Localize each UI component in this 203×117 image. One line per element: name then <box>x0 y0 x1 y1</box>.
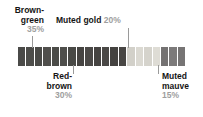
bar-segment <box>161 47 169 66</box>
bar-segment <box>60 47 68 66</box>
bar-segment <box>18 47 26 66</box>
bar-segment <box>178 47 185 66</box>
callout-red-brown-line2: brown <box>47 81 73 91</box>
callout-brown-green-line2: green <box>21 15 44 25</box>
callout-muted-gold-percent: 20% <box>104 15 121 25</box>
callout-red-brown-line1: Red- <box>53 71 72 81</box>
bar-segment <box>119 47 127 66</box>
chart-canvas: Brown- green 35% Muted gold 20% Red- bro… <box>0 0 203 117</box>
leader-line-muted-gold <box>128 28 129 48</box>
bar-segment <box>43 47 51 66</box>
callout-muted-mauve: Muted mauve 15% <box>162 72 189 101</box>
bar-segment <box>110 47 118 66</box>
callout-muted-mauve-line2: mauve <box>162 81 189 91</box>
leader-line-muted-mauve <box>158 65 159 74</box>
bar-segment <box>35 47 43 66</box>
callout-muted-mauve-line1: Muted <box>162 71 187 81</box>
bar-segment <box>85 47 93 66</box>
bar-segment <box>136 47 144 66</box>
bar-segment <box>68 47 76 66</box>
callout-muted-gold-name: Muted gold <box>56 15 101 25</box>
callout-brown-green-line1: Brown- <box>15 5 44 15</box>
callout-brown-green-percent: 35% <box>2 25 44 35</box>
callout-muted-gold: Muted gold 20% <box>56 16 121 26</box>
leader-line-brown-green <box>32 36 33 48</box>
bar-segment <box>52 47 60 66</box>
bar-segment <box>102 47 110 66</box>
bar-segment <box>153 47 161 66</box>
bar-segment <box>127 47 135 66</box>
bar-segment <box>26 47 34 66</box>
bar-segment <box>94 47 102 66</box>
segmented-color-bar <box>18 47 185 66</box>
bar-segment <box>169 47 177 66</box>
bar-segment <box>77 47 85 66</box>
bar-segment <box>144 47 152 66</box>
callout-red-brown: Red- brown 30% <box>32 72 72 101</box>
callout-brown-green: Brown- green 35% <box>2 6 44 35</box>
leader-line-red-brown <box>73 65 74 74</box>
callout-red-brown-percent: 30% <box>32 91 72 101</box>
callout-muted-mauve-percent: 15% <box>162 91 189 101</box>
